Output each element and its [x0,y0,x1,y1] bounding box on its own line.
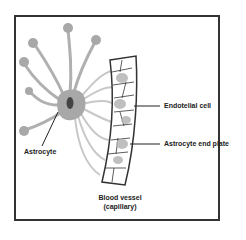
label-blood-vessel: Blood vessel [90,194,150,202]
label-astrocyte-end-plate: Astrocyte end plate [164,140,229,148]
label-capillary: (capillary) [90,203,150,211]
label-astrocyte: Astrocyte [24,148,56,156]
label-endothelial-cell: Endotelial cell [164,102,211,110]
nucleus [67,97,74,109]
astrocyte-endfeet-tips [19,23,101,136]
